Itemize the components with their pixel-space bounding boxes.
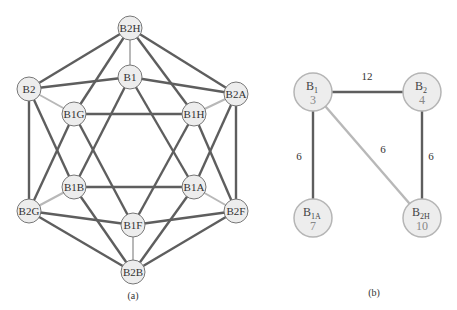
node-B1: B1 (118, 65, 142, 89)
node-label: B1B (64, 181, 84, 193)
node-label: B2A (226, 88, 247, 100)
node-value: 4 (419, 93, 425, 107)
node-value: 10 (416, 219, 428, 233)
node-label: B2B (123, 266, 143, 278)
node-value: 7 (310, 219, 316, 233)
node-B2H: B2H10 (403, 199, 441, 237)
diagram-canvas: B2HB1B2B2AB1GB1HB1BB1AB2GB2FB1FB2B (a) 1… (0, 0, 457, 310)
edge-weight: 6 (380, 143, 386, 155)
node-label: B1 (124, 71, 137, 83)
edge-weight: 6 (428, 150, 434, 162)
node-B2G: B2G (17, 199, 41, 223)
node-label: B2 (23, 83, 36, 95)
node-value: 3 (310, 93, 316, 107)
node-label: B1H (184, 108, 205, 120)
node-label: B1G (64, 108, 85, 120)
node-B1A: B1A7 (294, 199, 332, 237)
node-B2H: B2H (118, 16, 142, 40)
node-B2B: B2B (121, 260, 145, 284)
panel-b-caption: (b) (368, 287, 380, 299)
node-B2F: B2F (224, 199, 248, 223)
node-label: B2F (227, 205, 246, 217)
node-B2: B2 (17, 77, 41, 101)
edge-weight: 12 (362, 70, 373, 82)
node-label: B1F (124, 219, 143, 231)
node-B1H: B1H (182, 102, 206, 126)
edge-B2H-B2A (130, 28, 236, 94)
edge-B2G-B2B (29, 211, 133, 272)
panel-a-caption: (a) (127, 290, 138, 302)
node-B1F: B1F (121, 213, 145, 237)
node-B1: B13 (294, 73, 332, 111)
edge-B2G-B1F (29, 211, 133, 225)
node-B1A: B1A (182, 175, 206, 199)
edge-B2F-B1F (133, 211, 236, 225)
edge-B1-B2H (313, 92, 422, 218)
node-B1B: B1B (62, 175, 86, 199)
node-label: B2G (19, 205, 40, 217)
edge-B2F-B2B (133, 211, 236, 272)
node-B1G: B1G (62, 102, 86, 126)
node-label: B2H (120, 22, 141, 34)
node-label: B1A (184, 181, 205, 193)
edge-weight: 6 (296, 150, 302, 162)
node-B2: B24 (403, 73, 441, 111)
node-B2A: B2A (224, 82, 248, 106)
